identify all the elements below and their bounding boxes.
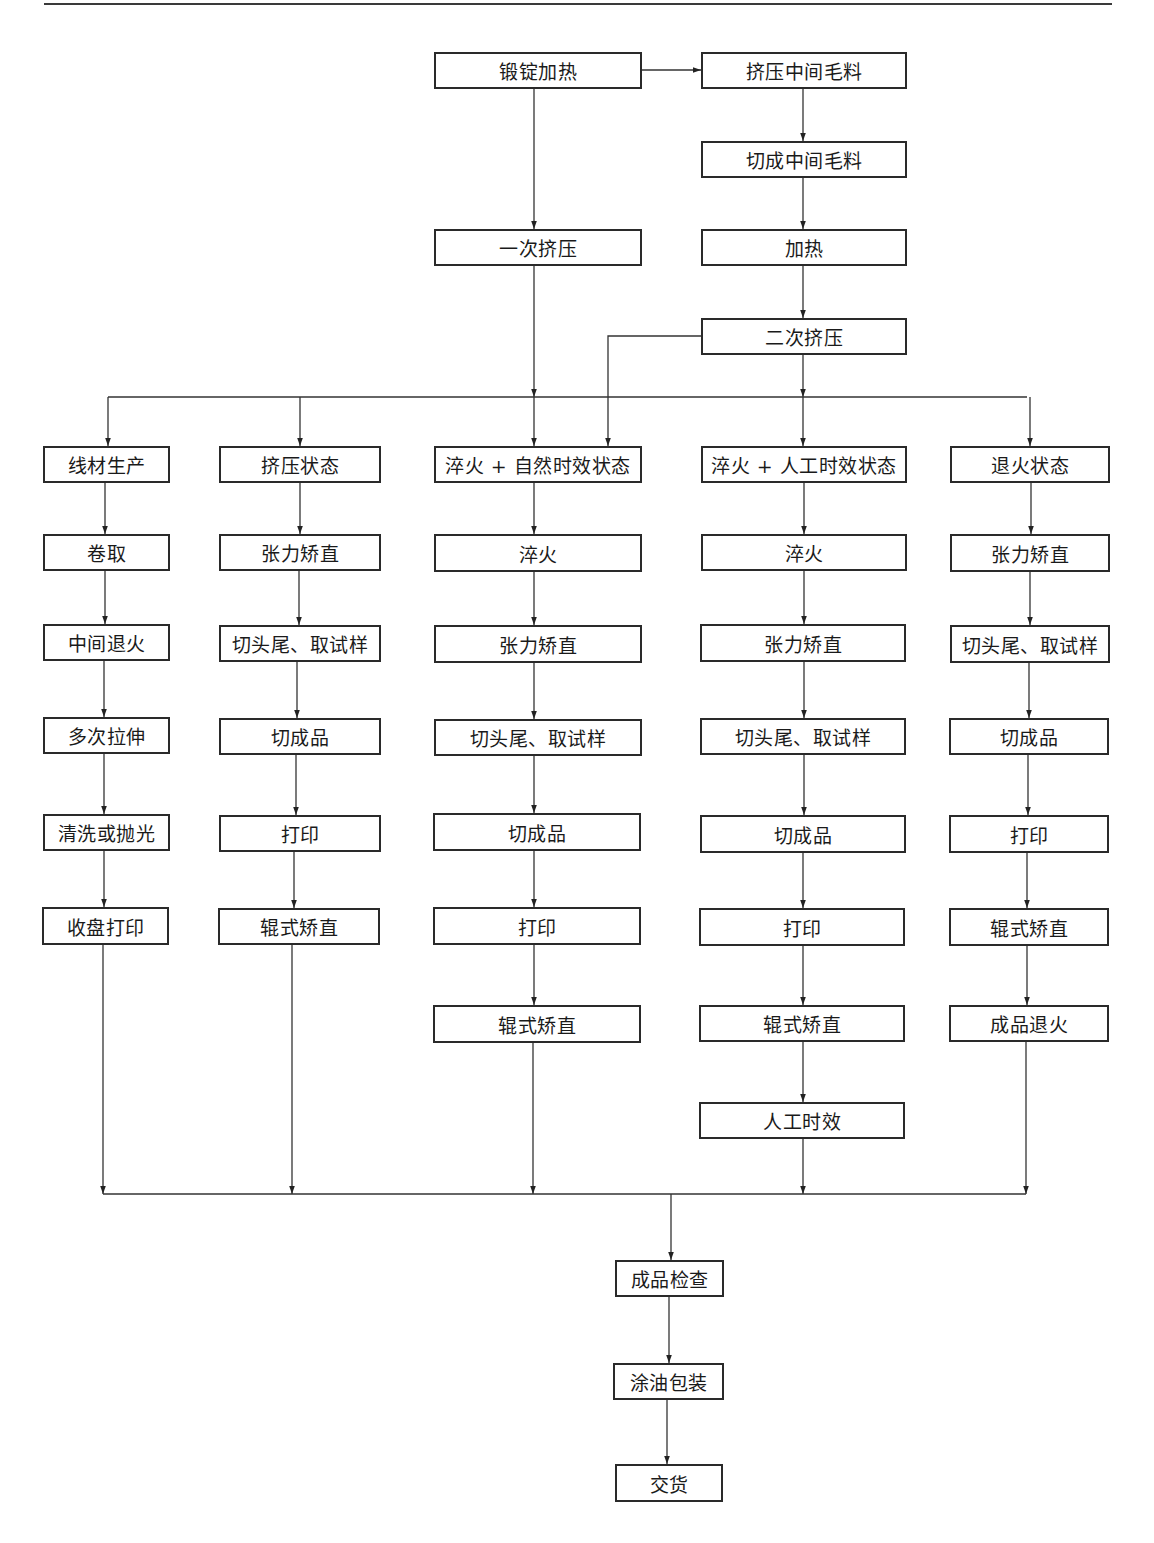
branch-title-annealed-state: 退火状态 [950,446,1110,483]
step-node: 切成品 [433,813,641,851]
step-node: 打印 [433,907,641,945]
node-delivery: 交货 [615,1464,723,1502]
step-node: 切成品 [949,718,1109,755]
step-node: 切头尾、取试样 [700,718,906,755]
step-node: 切头尾、取试样 [434,719,642,756]
step-node: 辊式矫直 [949,908,1109,946]
arrow-second-to-natural-aging [608,336,701,446]
step-node: 辊式矫直 [218,908,380,945]
step-node: 张力矫直 [700,624,906,662]
step-node: 切头尾、取试样 [219,625,381,662]
branch-title-wire-production: 线材生产 [43,446,170,483]
node-oiling-packaging: 涂油包装 [613,1363,724,1400]
step-node: 淬火 [434,534,642,572]
flowchart-canvas: 锻锭加热 挤压中间毛料 切成中间毛料 一次挤压 加热 二次挤压 线材生产 卷取 … [0,0,1154,1543]
step-node: 清洗或抛光 [43,814,170,851]
node-cut-intermediate: 切成中间毛料 [701,141,907,178]
step-node: 切成品 [219,718,381,755]
branch-title-quench-natural-aging: 淬火 + 自然时效状态 [434,446,642,483]
node-heating: 加热 [701,229,907,266]
step-node: 人工时效 [699,1102,905,1139]
node-final-inspection: 成品检查 [615,1260,724,1297]
step-node: 切成品 [700,815,906,853]
step-node: 多次拉伸 [43,717,170,754]
step-node: 打印 [949,815,1109,853]
step-node: 成品退火 [949,1005,1109,1042]
node-first-extrusion: 一次挤压 [434,229,642,266]
step-node: 卷取 [43,534,170,571]
step-node: 辊式矫直 [699,1005,905,1042]
branch-title-quench-artificial-aging: 淬火 + 人工时效状态 [701,446,907,483]
step-node: 辊式矫直 [433,1005,641,1043]
branch-title-extruded-state: 挤压状态 [219,446,381,483]
step-node: 收盘打印 [42,907,169,945]
step-node: 中间退火 [43,624,170,661]
step-node: 张力矫直 [219,534,381,571]
node-second-extrusion: 二次挤压 [701,318,907,355]
step-node: 淬火 [701,534,907,571]
node-ingot-heating: 锻锭加热 [434,52,642,89]
step-node: 打印 [219,815,381,852]
step-node: 张力矫直 [434,625,642,663]
step-node: 打印 [699,908,905,946]
node-extrude-intermediate: 挤压中间毛料 [701,52,907,89]
step-node: 张力矫直 [950,534,1110,572]
step-node: 切头尾、取试样 [950,625,1110,663]
